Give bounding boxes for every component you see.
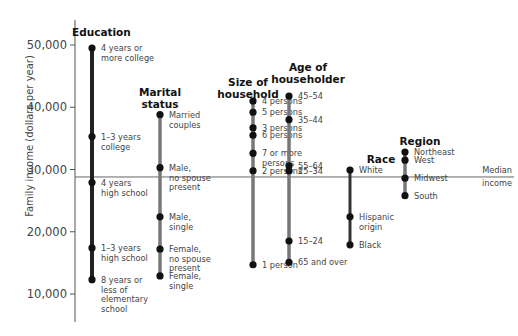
age-of-householder-data-point [285, 92, 292, 99]
size-of-household-title: Size of [228, 76, 268, 88]
education-point-label: high school [101, 253, 148, 263]
size-of-household-data-point [249, 167, 256, 174]
age-of-householder-data-point [285, 167, 292, 174]
age-of-householder-data-point [285, 259, 292, 266]
education-data-point [88, 244, 95, 251]
education-point-label: school [101, 304, 127, 314]
marital-status-data-point [156, 111, 163, 118]
age-of-householder-point-label: 35–44 [298, 115, 323, 125]
size-of-household-point-label: 4 persons [262, 96, 302, 106]
y-tick-label: 50,000 [27, 38, 67, 52]
race-data-point [346, 167, 353, 174]
education-data-point [88, 45, 95, 52]
marital-status-data-point [156, 164, 163, 171]
education-point-label: high school [101, 188, 148, 198]
marital-status-title: Marital [139, 86, 181, 98]
race-point-label: origin [359, 222, 382, 232]
size-of-household-data-point [249, 97, 256, 104]
median-income-label: income [482, 178, 512, 188]
education-point-label: 8 years or [101, 275, 143, 285]
size-of-household-point-label: 2 persons [262, 166, 302, 176]
marital-status-point-label: no spouse [169, 254, 211, 264]
marital-status-point-label: Female, [169, 244, 201, 254]
education-point-label: 4 years [101, 178, 131, 188]
marital-status-point-label: single [169, 281, 193, 291]
size-of-household-data-point [249, 124, 256, 131]
size-of-household-point-label: 6 persons [262, 130, 302, 140]
age-of-householder-data-point [285, 116, 292, 123]
y-tick-label: 20,000 [27, 225, 67, 239]
size-of-household-data-point [249, 132, 256, 139]
median-income-label: Median [482, 165, 512, 175]
marital-status-point-label: Married [169, 110, 200, 120]
marital-status-title: status [141, 98, 178, 110]
education-point-label: less of [101, 285, 128, 295]
age-of-householder-point-label: 25–34 [298, 166, 323, 176]
education-data-point [88, 179, 95, 186]
race-point-label: Black [359, 240, 381, 250]
age-of-householder-title: Age of [289, 61, 328, 73]
education-data-point [88, 276, 95, 283]
income-dot-range-chart: 10,00020,00030,00040,00050,000Family inc… [0, 0, 518, 336]
education-point-label: 1–3 years [101, 132, 141, 142]
race-data-point [346, 213, 353, 220]
education-point-label: more college [101, 53, 154, 63]
marital-status-data-point [156, 246, 163, 253]
age-of-householder-point-label: 15–24 [298, 236, 323, 246]
y-axis-label: Family income (dollars per year) [24, 55, 35, 217]
education-point-label: college [101, 142, 130, 152]
education-point-label: 4 years or [101, 43, 143, 53]
y-tick-label: 10,000 [27, 287, 67, 301]
education-point-label: elementary [101, 294, 148, 304]
marital-status-point-label: single [169, 222, 193, 232]
region-point-label: South [414, 191, 438, 201]
education-data-point [88, 133, 95, 140]
region-data-point [401, 192, 408, 199]
region-data-point [401, 148, 408, 155]
age-of-householder-point-label: 45–54 [298, 91, 323, 101]
region-title: Region [399, 135, 440, 147]
age-of-householder-point-label: 65 and over [298, 257, 348, 267]
region-data-point [401, 157, 408, 164]
race-data-point [346, 241, 353, 248]
size-of-household-data-point [249, 261, 256, 268]
region-data-point [401, 175, 408, 182]
marital-status-point-label: no spouse [169, 173, 211, 183]
size-of-household-data-point [249, 109, 256, 116]
race-title: Race [367, 153, 396, 165]
marital-status-point-label: Male, [169, 163, 191, 173]
size-of-household-data-point [249, 150, 256, 157]
age-of-householder-data-point [285, 237, 292, 244]
marital-status-point-label: couples [169, 120, 200, 130]
marital-status-point-label: present [169, 182, 201, 192]
marital-status-data-point [156, 213, 163, 220]
size-of-household-point-label: 7 or more [262, 148, 302, 158]
race-point-label: Hispanic [359, 212, 394, 222]
size-of-household-point-label: 5 persons [262, 107, 302, 117]
age-of-householder-title: householder [271, 73, 345, 85]
education-title: Education [72, 26, 131, 38]
race-point-label: White [359, 165, 383, 175]
region-point-label: West [414, 155, 435, 165]
marital-status-point-label: Male, [169, 212, 191, 222]
region-point-label: Midwest [414, 173, 449, 183]
education-point-label: 1–3 years [101, 243, 141, 253]
chart-canvas: 10,00020,00030,00040,00050,000Family inc… [0, 0, 518, 336]
marital-status-data-point [156, 272, 163, 279]
marital-status-point-label: Female, [169, 271, 201, 281]
